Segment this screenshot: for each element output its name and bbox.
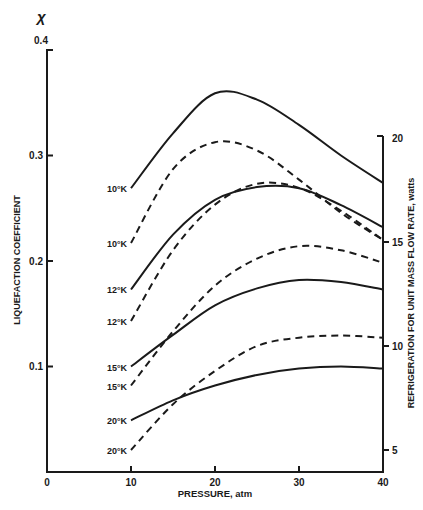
y-axis-label: LIQUEFACTION COEFFICIENT bbox=[12, 195, 22, 325]
curve-labels: 10°K10°K12°K12°K15°K15°K20°K20°K bbox=[107, 184, 128, 456]
y-tick-label: 0.1 bbox=[29, 361, 43, 372]
y2-tick-label: 15 bbox=[392, 237, 404, 248]
curve-15K-solid bbox=[131, 280, 383, 367]
curves bbox=[131, 91, 383, 450]
curve-label: 10°K bbox=[107, 184, 128, 194]
chi-symbol: χ bbox=[35, 8, 47, 25]
x-tick-label: 20 bbox=[209, 477, 221, 488]
curve-label: 12°K bbox=[107, 317, 128, 327]
x-tick-label: 30 bbox=[293, 477, 305, 488]
x-tick-label: 10 bbox=[125, 477, 137, 488]
x-tick-label: 40 bbox=[377, 477, 389, 488]
y2-tick-label: 10 bbox=[392, 341, 404, 352]
curve-10K-dashed bbox=[131, 141, 383, 243]
y2-tick-label: 5 bbox=[392, 445, 398, 456]
x-tick-label: 0 bbox=[44, 477, 50, 488]
chart-container: 010203040 0.10.20.30.4 5101520 10°K10°K1… bbox=[0, 0, 423, 510]
curve-label: 15°K bbox=[107, 382, 128, 392]
x-ticks: 010203040 bbox=[44, 466, 389, 488]
y-tick-label: 0.3 bbox=[29, 150, 43, 161]
chart-svg: 010203040 0.10.20.30.4 5101520 10°K10°K1… bbox=[0, 0, 423, 510]
curve-20K-dashed bbox=[131, 336, 383, 450]
y2-tick-label: 20 bbox=[392, 133, 404, 144]
y-ticks: 0.10.20.30.4 bbox=[29, 35, 53, 372]
axes bbox=[46, 49, 384, 473]
curve-12K-dashed bbox=[131, 183, 383, 321]
curve-15K-dashed bbox=[131, 246, 383, 386]
curve-label: 12°K bbox=[107, 285, 128, 295]
y2-axis-label: REFRIGERATION FOR UNIT MASS FLOW RATE, w… bbox=[406, 178, 416, 409]
y2-ticks: 5101520 bbox=[383, 133, 404, 456]
curve-label: 10°K bbox=[107, 239, 128, 249]
curve-label: 20°K bbox=[107, 446, 128, 456]
curve-label: 15°K bbox=[107, 363, 128, 373]
y-tick-label: 0.2 bbox=[29, 256, 43, 267]
x-axis-label: PRESSURE, atm bbox=[178, 488, 252, 499]
curve-20K-solid bbox=[131, 367, 383, 421]
y-tick-label: 0.4 bbox=[34, 35, 48, 46]
curve-12K-solid bbox=[131, 186, 383, 290]
curve-label: 20°K bbox=[107, 416, 128, 426]
